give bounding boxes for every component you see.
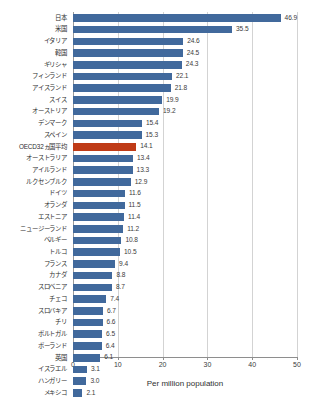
bar-value-label: 3.1 bbox=[91, 366, 100, 373]
bar bbox=[73, 178, 131, 186]
bar-row: 12.9 bbox=[73, 176, 297, 188]
bar-row: 8.8 bbox=[73, 270, 297, 282]
bar-row: 2.1 bbox=[73, 387, 297, 399]
bar-row: 46.9 bbox=[73, 12, 297, 24]
bar-row: 11.6 bbox=[73, 188, 297, 200]
bar bbox=[73, 26, 232, 34]
tick-label-20: 20 bbox=[159, 361, 167, 368]
bar-value-label: 46.9 bbox=[285, 15, 297, 22]
bar bbox=[73, 366, 87, 374]
bar-value-label: 19.9 bbox=[166, 97, 178, 104]
category-label: ギリシャ bbox=[0, 59, 70, 71]
bar-row: 11.5 bbox=[73, 200, 297, 212]
category-label: 英国 bbox=[0, 352, 70, 364]
bar-row: 24.5 bbox=[73, 47, 297, 59]
bar-value-label: 10.5 bbox=[124, 249, 136, 256]
category-label: スロバキア bbox=[0, 305, 70, 317]
bar bbox=[73, 166, 133, 174]
bar bbox=[73, 131, 142, 139]
bar bbox=[73, 260, 115, 268]
bar bbox=[73, 330, 102, 338]
bar bbox=[73, 155, 133, 163]
bar bbox=[73, 213, 124, 221]
bar-row: 35.5 bbox=[73, 24, 297, 36]
bar-row: 21.8 bbox=[73, 82, 297, 94]
bar bbox=[73, 202, 125, 210]
bar-value-label: 11.4 bbox=[128, 214, 140, 221]
category-label: ルクセンブルク bbox=[0, 176, 70, 188]
bar bbox=[73, 237, 121, 245]
bar-value-label: 11.6 bbox=[129, 190, 141, 197]
category-label: ニュージーランド bbox=[0, 223, 70, 235]
bar-row: 19.2 bbox=[73, 106, 297, 118]
bar bbox=[73, 38, 183, 46]
bar-row: 7.4 bbox=[73, 293, 297, 305]
bar bbox=[73, 49, 183, 57]
bar-value-label: 13.3 bbox=[137, 167, 149, 174]
category-label: チリ bbox=[0, 317, 70, 329]
bar-value-label: 35.5 bbox=[236, 26, 248, 33]
category-label: OECD32ヵ国平均 bbox=[0, 141, 70, 153]
bar-value-label: 24.3 bbox=[186, 61, 198, 68]
category-axis-labels: 日本米国イタリア韓国ギリシャフィンランドアイスランドスイスオーストリアデンマーク… bbox=[0, 12, 70, 357]
category-label: デンマーク bbox=[0, 117, 70, 129]
bar-value-label: 6.4 bbox=[106, 343, 115, 350]
bar-row: 13.4 bbox=[73, 153, 297, 165]
bar-row: 13.3 bbox=[73, 164, 297, 176]
bar-value-label: 13.4 bbox=[137, 155, 149, 162]
category-label: チェコ bbox=[0, 293, 70, 305]
bar-rows: 46.935.524.624.524.322.121.819.919.215.4… bbox=[73, 12, 297, 357]
bar-value-label: 14.1 bbox=[140, 143, 152, 150]
bar-highlight bbox=[73, 143, 136, 151]
bar bbox=[73, 61, 182, 69]
category-label: イタリア bbox=[0, 35, 70, 47]
bar-value-label: 22.1 bbox=[176, 73, 188, 80]
category-label: カナダ bbox=[0, 270, 70, 282]
bar-row: 6.7 bbox=[73, 305, 297, 317]
category-label: フランス bbox=[0, 258, 70, 270]
bar bbox=[73, 342, 102, 350]
category-label: 日本 bbox=[0, 12, 70, 24]
category-label: ポルトガル bbox=[0, 328, 70, 340]
tick-mark-10 bbox=[118, 357, 119, 360]
bar-value-label: 15.3 bbox=[146, 132, 158, 139]
bar-row: 11.2 bbox=[73, 223, 297, 235]
gridline-50 bbox=[297, 12, 298, 357]
tick-mark-20 bbox=[163, 357, 164, 360]
category-label: フィンランド bbox=[0, 71, 70, 83]
bar-value-label: 21.8 bbox=[175, 85, 187, 92]
bar-value-label: 12.9 bbox=[135, 179, 147, 186]
bar-row: 9.4 bbox=[73, 258, 297, 270]
category-label: オーストラリア bbox=[0, 153, 70, 165]
tick-mark-30 bbox=[207, 357, 208, 360]
category-label: エストニア bbox=[0, 211, 70, 223]
category-label: ドイツ bbox=[0, 188, 70, 200]
bar-row: 6.6 bbox=[73, 317, 297, 329]
bar bbox=[73, 354, 100, 362]
category-label: イスラエル bbox=[0, 364, 70, 376]
bar-chart: 日本米国イタリア韓国ギリシャフィンランドアイスランドスイスオーストリアデンマーク… bbox=[0, 0, 317, 401]
category-label: トルコ bbox=[0, 246, 70, 258]
bar-value-label: 9.4 bbox=[119, 261, 128, 268]
bar-value-label: 11.5 bbox=[129, 202, 141, 209]
bar-row: 6.4 bbox=[73, 340, 297, 352]
bar-row: 8.7 bbox=[73, 282, 297, 294]
bar-row: 24.3 bbox=[73, 59, 297, 71]
bar bbox=[73, 389, 82, 397]
bar-value-label: 24.5 bbox=[187, 50, 199, 57]
x-axis-title: Per million population bbox=[73, 380, 297, 388]
bar-row: 10.5 bbox=[73, 246, 297, 258]
bar-value-label: 11.2 bbox=[127, 226, 139, 233]
bar-row: 15.3 bbox=[73, 129, 297, 141]
bar bbox=[73, 190, 125, 198]
bar bbox=[73, 14, 281, 22]
category-label: スイス bbox=[0, 94, 70, 106]
category-label: アイスランド bbox=[0, 82, 70, 94]
bar-row: 11.4 bbox=[73, 211, 297, 223]
bar-value-label: 3.0 bbox=[90, 378, 99, 385]
bar-value-label: 8.7 bbox=[116, 284, 125, 291]
bar bbox=[73, 307, 103, 315]
category-label: オランダ bbox=[0, 200, 70, 212]
bar bbox=[73, 284, 112, 292]
tick-label-30: 30 bbox=[203, 361, 211, 368]
